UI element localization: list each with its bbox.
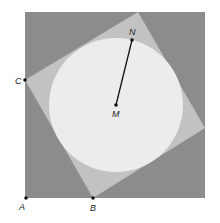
point-c-dot [23, 78, 27, 82]
point-m-dot [114, 103, 118, 107]
point-b-dot [91, 196, 95, 200]
point-m-label: M [112, 109, 120, 119]
point-a: A [18, 196, 28, 212]
point-a-label: A [18, 202, 25, 212]
point-c-label: C [15, 76, 22, 86]
point-a-dot [24, 196, 28, 200]
point-b-label: B [90, 203, 96, 213]
point-n-label: N [129, 27, 136, 37]
geometry-diagram: A B C M N [0, 0, 220, 223]
point-n-dot [130, 38, 134, 42]
point-b: B [90, 196, 96, 213]
